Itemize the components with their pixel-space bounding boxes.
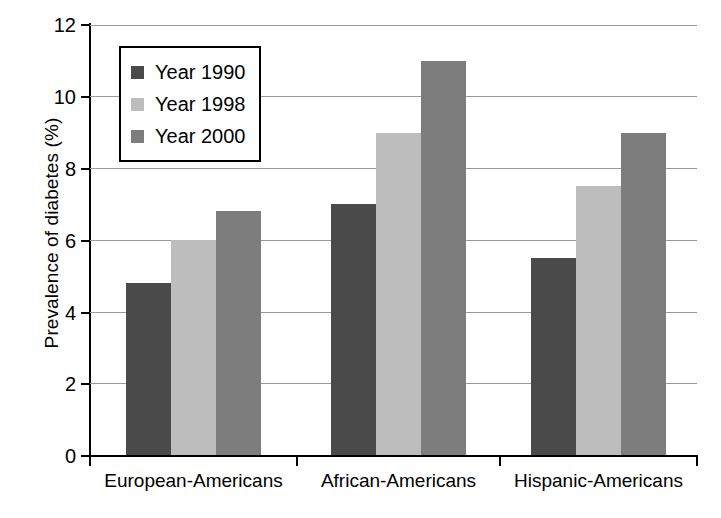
x-axis-line — [89, 455, 698, 457]
bar-african-americans-year-1998[interactable] — [376, 133, 421, 456]
y-tick-label-12: 12 — [36, 15, 76, 35]
bar-chart: Prevalence of diabetes (%) 12 10 8 6 4 2… — [0, 0, 721, 518]
y-tick-label-8: 8 — [36, 159, 76, 179]
bar-european-americans-year-2000[interactable] — [216, 211, 261, 455]
x-axis-label-european-americans: European-Americans — [90, 470, 297, 492]
x-tick-mark-start — [89, 455, 91, 466]
bar-group-hispanic-americans — [500, 25, 697, 455]
bar-european-americans-year-1990[interactable] — [126, 283, 171, 455]
y-tick-label-0: 0 — [36, 446, 76, 466]
y-tick-mark-10 — [81, 96, 90, 98]
legend-swatch-icon-year-2000 — [131, 130, 144, 143]
y-tick-mark-2 — [81, 383, 90, 385]
bar-african-americans-year-1990[interactable] — [331, 204, 376, 455]
y-tick-label-2: 2 — [36, 374, 76, 394]
bar-hispanic-americans-year-1990[interactable] — [531, 258, 576, 455]
bar-group-african-americans — [297, 25, 500, 455]
x-axis-label-african-americans: African-Americans — [297, 470, 500, 492]
bar-hispanic-americans-year-1998[interactable] — [576, 186, 621, 455]
bar-african-americans-year-2000[interactable] — [421, 61, 466, 455]
bar-hispanic-americans-year-2000[interactable] — [621, 133, 666, 456]
legend-item-year-1998[interactable]: Year 1998 — [131, 88, 245, 120]
y-tick-label-10: 10 — [36, 87, 76, 107]
y-tick-mark-4 — [81, 312, 90, 314]
legend-swatch-icon-year-1990 — [131, 66, 144, 79]
x-tick-mark-2 — [499, 455, 501, 466]
x-tick-mark-1 — [296, 455, 298, 466]
legend-label-year-1990: Year 1990 — [155, 62, 245, 82]
legend-swatch-icon-year-1998 — [131, 98, 144, 111]
x-tick-mark-end — [696, 455, 698, 466]
legend-label-year-2000: Year 2000 — [155, 126, 245, 146]
y-tick-mark-8 — [81, 168, 90, 170]
legend-label-year-1998: Year 1998 — [155, 94, 245, 114]
x-axis-label-hispanic-americans: Hispanic-Americans — [500, 470, 697, 492]
y-tick-label-4: 4 — [36, 303, 76, 323]
bar-european-americans-year-1998[interactable] — [171, 240, 216, 455]
legend: Year 1990 Year 1998 Year 2000 — [119, 46, 261, 162]
y-tick-mark-12 — [81, 24, 90, 26]
legend-item-year-1990[interactable]: Year 1990 — [131, 56, 245, 88]
legend-item-year-2000[interactable]: Year 2000 — [131, 120, 245, 152]
y-tick-label-6: 6 — [36, 231, 76, 251]
y-tick-mark-6 — [81, 240, 90, 242]
